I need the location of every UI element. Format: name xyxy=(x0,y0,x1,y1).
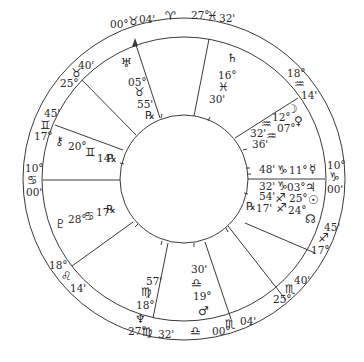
cusp8-degree: 17° xyxy=(311,245,330,256)
dsc-minutes: 00' xyxy=(327,184,343,195)
cusp-line-ic xyxy=(205,242,231,319)
cusp-line-8 xyxy=(245,223,315,253)
uranus-minutes: 55' xyxy=(137,99,153,110)
north-node-icon: ☊ xyxy=(305,213,316,225)
uranus-sign-taurus-icon: ♉ xyxy=(134,86,145,98)
aries-icon: ♈ xyxy=(165,10,176,22)
saturn-degree: 16° xyxy=(218,70,237,81)
mc-arrow-icon xyxy=(132,38,138,47)
mc-sign-taurus-icon: ♉ xyxy=(128,15,139,27)
asc-minutes: 00' xyxy=(26,187,42,198)
cusp8-sign-sagittarius-icon: ♐ xyxy=(318,232,329,244)
cusp4-minutes: 14' xyxy=(70,283,86,294)
cusp5-sign-virgo-icon: ♍ xyxy=(142,326,153,338)
moon-degree: 12° xyxy=(272,112,291,123)
neptune-degree: 18° xyxy=(136,300,155,311)
ic-degree: 00° xyxy=(212,326,231,337)
mc-degree: 00° xyxy=(110,19,129,30)
cusp7-minutes: 40' xyxy=(294,275,310,286)
cusp7-degree: 25° xyxy=(273,294,292,305)
cusp-line-1 xyxy=(82,80,136,135)
cusp11-minutes: 32' xyxy=(219,13,235,24)
chiron-degree: 20° xyxy=(68,141,87,152)
pluto-sign-cancer-icon: ♋ xyxy=(84,210,95,222)
dsc-sign-capricorn-icon: ♑ xyxy=(329,171,340,183)
chiron-icon: ⚷ xyxy=(55,135,64,147)
pluto-icon: ♇ xyxy=(55,218,66,230)
moon-minutes: 32' xyxy=(250,128,266,139)
uranus-icon: ♅ xyxy=(121,57,132,69)
cusp12-minutes: 14' xyxy=(301,90,317,101)
venus-minutes: 36' xyxy=(252,139,268,150)
sun-icon: ☉ xyxy=(308,194,319,206)
chiron-retrograde-icon: ℞ xyxy=(107,153,117,164)
node-minutes: 17' xyxy=(256,203,272,214)
mercury-minutes: 48' xyxy=(259,164,275,175)
sun-minutes: 54' xyxy=(259,191,275,202)
venus-degree: 07° xyxy=(277,123,296,134)
uranus-retrograde-icon: ℞ xyxy=(145,110,155,121)
ic-minutes: 04' xyxy=(240,316,256,327)
saturn-icon: ♄ xyxy=(227,52,238,64)
inner-circle xyxy=(120,115,248,243)
cusp4-sign-leo-icon: ♌ xyxy=(61,270,72,282)
cusp5-minutes: 32' xyxy=(158,329,174,340)
sun-degree: 25° xyxy=(289,193,308,204)
cusp11-sign-pisces-icon: ♓ xyxy=(207,10,218,22)
neptune-sign-virgo-icon: ♍ xyxy=(141,286,152,298)
cusp2-minutes: 45' xyxy=(44,108,60,119)
saturn-minutes: 30' xyxy=(209,94,225,105)
mars-degree: 19° xyxy=(193,291,212,302)
mercury-degree: 11° xyxy=(289,165,308,176)
cusp2-degree: 17° xyxy=(34,131,53,142)
mars-icon: ♂ xyxy=(198,305,209,317)
mars-minutes: 30' xyxy=(191,264,207,275)
node-retrograde-icon: ℞ xyxy=(246,201,256,212)
cusp1-minutes: 40' xyxy=(78,60,94,71)
asc-sign-cancer-icon: ♋ xyxy=(27,174,38,186)
chiron-sign-gemini-icon: ♊ xyxy=(85,146,96,158)
saturn-sign-pisces-icon: ♓ xyxy=(218,81,229,93)
node-degree: 24° xyxy=(288,205,307,216)
mercury-icon: ☿ xyxy=(309,163,316,175)
mc-minutes: 04' xyxy=(139,14,155,25)
asc-degree: 10° xyxy=(25,163,44,174)
mars-sign-libra-icon: ♎ xyxy=(191,277,202,289)
jupiter-degree: 03° xyxy=(287,182,306,193)
mercury-sign-capricorn-icon: ♑ xyxy=(277,164,288,176)
libra-icon: ♎ xyxy=(190,325,201,337)
dsc-degree: 10° xyxy=(327,160,346,171)
cusp-line-11 xyxy=(194,39,209,116)
cusp-line-4 xyxy=(72,222,133,266)
node-sign-sagittarius-icon: ♐ xyxy=(276,202,287,214)
pluto-retrograde-icon: ℞ xyxy=(106,204,116,215)
neptune-icon: ♆ xyxy=(135,313,146,325)
